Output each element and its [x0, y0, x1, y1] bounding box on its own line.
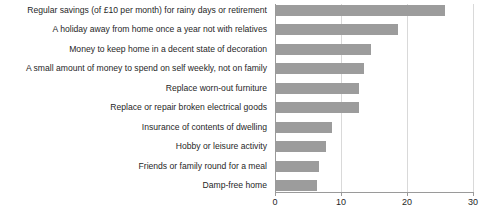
- bar[interactable]: [276, 141, 326, 152]
- bar-row: [275, 161, 473, 172]
- category-label: Hobby or leisure activity: [0, 141, 271, 152]
- x-axis-tick-marks: [275, 192, 474, 196]
- category-label: Money to keep home in a decent state of …: [0, 44, 271, 55]
- gridline: [473, 4, 474, 192]
- category-label: Damp-free home: [0, 180, 271, 191]
- bar[interactable]: [276, 122, 332, 133]
- category-label: Replace worn-out furniture: [0, 83, 271, 94]
- tick-mark: [341, 192, 342, 196]
- bar[interactable]: [276, 63, 364, 74]
- category-label: A small amount of money to spend on self…: [0, 63, 271, 74]
- bar[interactable]: [276, 44, 371, 55]
- category-label: Replace or repair broken electrical good…: [0, 102, 271, 113]
- bar[interactable]: [276, 83, 359, 94]
- category-label: Regular savings (of £10 per month) for r…: [0, 5, 271, 16]
- x-axis-tick-labels: 0102030: [275, 197, 474, 211]
- bar-row: [275, 5, 473, 16]
- bar[interactable]: [276, 5, 445, 16]
- bar-chart: Regular savings (of £10 per month) for r…: [0, 0, 486, 220]
- plot-area: [275, 4, 473, 192]
- bar-row: [275, 141, 473, 152]
- tick-mark: [407, 192, 408, 196]
- bar-row: [275, 102, 473, 113]
- tick-label: 0: [272, 197, 277, 207]
- tick-label: 30: [468, 197, 478, 207]
- bar-row: [275, 83, 473, 94]
- tick-label: 10: [336, 197, 346, 207]
- bar-row: [275, 180, 473, 191]
- bar-row: [275, 122, 473, 133]
- category-label: Insurance of contents of dwelling: [0, 122, 271, 133]
- bar[interactable]: [276, 102, 359, 113]
- category-label: Friends or family round for a meal: [0, 161, 271, 172]
- tick-mark: [473, 192, 474, 196]
- tick-label: 20: [402, 197, 412, 207]
- tick-mark: [275, 192, 276, 196]
- bar[interactable]: [276, 24, 398, 35]
- bar-row: [275, 63, 473, 74]
- bar[interactable]: [276, 161, 319, 172]
- bar-row: [275, 44, 473, 55]
- bar-rows: [275, 4, 473, 192]
- category-axis-labels: Regular savings (of £10 per month) for r…: [0, 4, 271, 192]
- bar[interactable]: [276, 180, 317, 191]
- bar-row: [275, 24, 473, 35]
- category-label: A holiday away from home once a year not…: [0, 24, 271, 35]
